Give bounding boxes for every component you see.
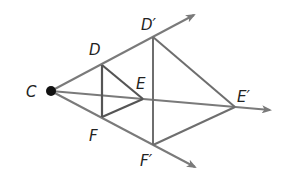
dilation-diagram: C D E F D′ E′ F′ — [0, 0, 297, 179]
segment-f-e — [102, 99, 143, 117]
label-d: D — [89, 41, 101, 59]
label-f: F — [89, 127, 98, 145]
label-f-prime: F′ — [140, 152, 153, 170]
label-c: C — [26, 83, 37, 101]
segment-d-prime-e-prime — [153, 37, 235, 107]
segment-f-prime-e-prime — [153, 107, 235, 145]
center-point-c — [46, 86, 56, 96]
label-d-prime: D′ — [141, 16, 157, 34]
label-e-prime: E′ — [237, 88, 250, 106]
label-e: E — [136, 75, 146, 93]
